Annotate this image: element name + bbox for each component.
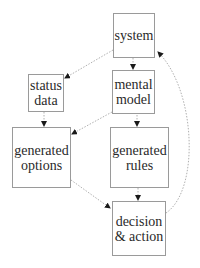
node-label: generated options [14,143,68,173]
edge-mental-model-to-generated-options [72,112,112,134]
node-generated-rules: generated rules [110,127,169,188]
node-label: mental model [114,77,152,107]
node-label: system [115,28,154,43]
node-label: generated rules [112,143,166,173]
node-label: status data [30,78,62,108]
node-label: decision & action [115,214,164,244]
node-status-data: status data [28,74,64,112]
edge-system-to-status-data [65,50,113,78]
node-generated-options: generated options [12,127,71,188]
edge-generated-options-to-decision-action [71,180,110,208]
node-mental-model: mental model [112,70,155,114]
node-decision-action: decision & action [112,201,166,256]
node-system: system [113,13,155,58]
